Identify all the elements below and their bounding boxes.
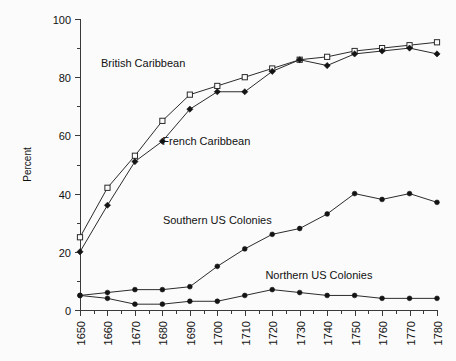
data-point-marker xyxy=(104,202,110,208)
y-tick-label: 80 xyxy=(59,72,71,84)
series-label-northern-us-colonies: Northern US Colonies xyxy=(265,269,372,281)
x-tick-label: 1750 xyxy=(350,321,362,345)
data-point-marker xyxy=(434,51,440,57)
data-point-marker xyxy=(105,290,110,295)
y-tick-label: 40 xyxy=(59,189,71,201)
data-point-marker xyxy=(435,296,440,301)
y-tick-label: 60 xyxy=(59,130,71,142)
x-tick-label: 1650 xyxy=(75,321,87,345)
series-line xyxy=(80,42,437,237)
data-point-marker xyxy=(407,191,412,196)
x-tick-label: 1680 xyxy=(157,321,169,345)
y-tick-label: 0 xyxy=(65,305,71,317)
series-line xyxy=(80,194,437,296)
series-british-caribbean xyxy=(77,40,439,240)
series-southern-us-colonies xyxy=(78,191,440,298)
data-point-marker xyxy=(270,232,275,237)
data-point-marker xyxy=(435,200,440,205)
x-tick-label: 1710 xyxy=(240,321,252,345)
data-point-marker xyxy=(77,249,83,255)
x-tick-label: 1770 xyxy=(405,321,417,345)
data-point-marker xyxy=(242,75,247,80)
x-tick-label: 1670 xyxy=(130,321,142,345)
data-point-marker xyxy=(242,246,247,251)
data-point-marker xyxy=(297,290,302,295)
chart-container: 0204060801001650166016701680169017001710… xyxy=(0,0,456,361)
data-point-marker xyxy=(105,296,110,301)
x-tick-label: 1690 xyxy=(185,321,197,345)
data-point-marker xyxy=(434,40,439,45)
data-point-marker xyxy=(160,302,165,307)
series-label-french-caribbean: French Caribbean xyxy=(162,135,250,147)
data-point-marker xyxy=(78,293,83,298)
data-point-marker xyxy=(352,293,357,298)
data-point-marker xyxy=(132,153,137,158)
data-point-marker xyxy=(187,299,192,304)
data-point-marker xyxy=(324,62,330,68)
y-tick-label: 100 xyxy=(53,14,71,26)
x-tick-label: 1660 xyxy=(102,321,114,345)
x-tick-label: 1720 xyxy=(267,321,279,345)
data-point-marker xyxy=(133,302,138,307)
series-group xyxy=(77,40,440,307)
y-axis-title-text: Percent xyxy=(22,147,33,182)
data-point-marker xyxy=(215,299,220,304)
data-point-marker xyxy=(297,226,302,231)
data-point-marker xyxy=(187,284,192,289)
data-point-marker xyxy=(133,287,138,292)
data-point-marker xyxy=(187,92,192,97)
y-tick-label: 20 xyxy=(59,247,71,259)
x-tick-label: 1760 xyxy=(377,321,389,345)
x-tick-label: 1780 xyxy=(432,321,444,345)
data-point-marker xyxy=(105,185,110,190)
x-tick-label: 1740 xyxy=(322,321,334,345)
data-point-marker xyxy=(270,287,275,292)
data-point-marker xyxy=(160,118,165,123)
data-point-marker xyxy=(215,264,220,269)
line-chart-plot: 0204060801001650166016701680169017001710… xyxy=(0,0,456,361)
data-point-marker xyxy=(214,89,220,95)
data-point-marker xyxy=(77,235,82,240)
data-point-marker xyxy=(325,212,330,217)
series-annotations: British CaribbeanFrench CaribbeanSouther… xyxy=(101,57,373,281)
data-point-marker xyxy=(325,293,330,298)
data-point-marker xyxy=(242,293,247,298)
series-label-southern-us-colonies: Southern US Colonies xyxy=(163,214,272,226)
y-axis-title: Percent xyxy=(22,147,33,182)
data-point-marker xyxy=(380,197,385,202)
data-point-marker xyxy=(325,54,330,59)
data-point-marker xyxy=(407,296,412,301)
x-tick-label: 1700 xyxy=(212,321,224,345)
series-label-british-caribbean: British Caribbean xyxy=(101,57,185,69)
x-tick-label: 1730 xyxy=(295,321,307,345)
data-point-marker xyxy=(215,83,220,88)
data-point-marker xyxy=(380,296,385,301)
data-point-marker xyxy=(160,287,165,292)
data-point-marker xyxy=(352,191,357,196)
